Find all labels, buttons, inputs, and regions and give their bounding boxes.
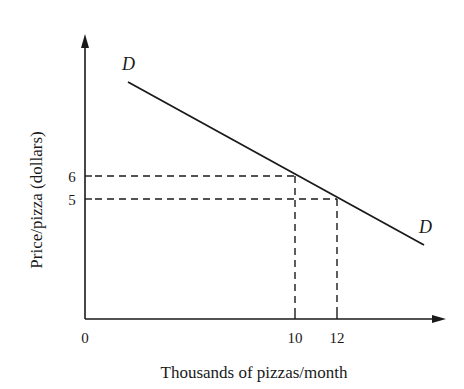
y-axis-label: Price/pizza (dollars) bbox=[27, 131, 46, 268]
x-axis-label: Thousands of pizzas/month bbox=[161, 363, 348, 382]
demand-curve bbox=[128, 82, 424, 245]
origin-label: 0 bbox=[81, 330, 89, 346]
x-axis-arrow-icon bbox=[432, 315, 446, 323]
y-tick-label-5: 5 bbox=[68, 192, 76, 208]
y-tick-label-6: 6 bbox=[68, 169, 76, 185]
x-tick-label-12: 12 bbox=[330, 330, 345, 346]
demand-chart: D D 6 5 0 10 12 Thousands of pizzas/mont… bbox=[0, 0, 464, 389]
demand-label-start: D bbox=[121, 54, 135, 74]
x-tick-label-10: 10 bbox=[288, 330, 303, 346]
demand-label-end: D bbox=[418, 217, 432, 237]
y-axis-arrow-icon bbox=[81, 34, 89, 48]
